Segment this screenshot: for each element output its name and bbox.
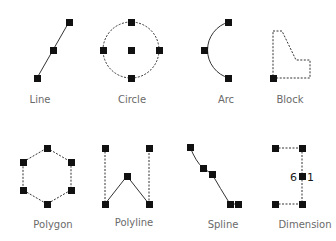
polygon-label: Polygon <box>33 219 72 230</box>
grip-icon[interactable] <box>201 47 208 54</box>
grip-icon[interactable] <box>128 47 135 54</box>
dimension-value-right: 1 <box>307 171 314 184</box>
grip-icon[interactable] <box>299 173 306 180</box>
grip-icon[interactable] <box>299 201 306 208</box>
grip-icon[interactable] <box>272 201 279 208</box>
line-entity: Line <box>30 19 73 105</box>
grip-icon[interactable] <box>128 75 135 82</box>
dimension-value-left: 6 <box>290 171 297 184</box>
grip-icon[interactable] <box>235 201 242 208</box>
grip-icon[interactable] <box>66 19 73 26</box>
block-entity: Block <box>270 31 310 105</box>
grip-icon[interactable] <box>187 144 194 151</box>
polygon-entity: Polygon <box>20 145 75 230</box>
grip-icon[interactable] <box>102 145 109 152</box>
spline-label: Spline <box>208 219 239 230</box>
grip-icon[interactable] <box>44 201 51 208</box>
arc-entity: Arc <box>201 19 234 105</box>
entity-grips-diagram: Line Circle Arc Block Polygon <box>0 0 336 241</box>
grip-icon[interactable] <box>227 201 234 208</box>
polygon-shape <box>23 148 71 204</box>
grip-icon[interactable] <box>44 145 51 152</box>
grip-icon[interactable] <box>156 47 163 54</box>
grip-icon[interactable] <box>100 47 107 54</box>
grip-icon[interactable] <box>128 19 135 26</box>
line-label: Line <box>30 94 51 105</box>
grip-icon[interactable] <box>20 187 27 194</box>
polyline-shape <box>105 176 149 204</box>
grip-icon[interactable] <box>225 19 232 26</box>
grip-icon[interactable] <box>50 47 57 54</box>
grip-icon[interactable] <box>68 187 75 194</box>
polyline-entity: Polyline <box>102 145 153 228</box>
grip-icon[interactable] <box>20 159 27 166</box>
grip-icon[interactable] <box>200 165 207 172</box>
grip-icon[interactable] <box>34 75 41 82</box>
block-shape <box>273 31 310 78</box>
arc-shape <box>208 22 229 78</box>
spline-entity: Spline <box>187 144 242 230</box>
polyline-label: Polyline <box>115 217 154 228</box>
grip-icon[interactable] <box>299 145 306 152</box>
grip-icon[interactable] <box>209 171 216 178</box>
circle-entity: Circle <box>100 19 163 105</box>
dimension-label: Dimension <box>278 219 331 230</box>
circle-label: Circle <box>118 94 146 105</box>
grip-icon[interactable] <box>225 75 232 82</box>
grip-icon[interactable] <box>270 75 277 82</box>
grip-icon[interactable] <box>146 145 153 152</box>
dimension-entity: 6 1 Dimension <box>272 145 332 230</box>
arc-label: Arc <box>218 94 234 105</box>
block-label: Block <box>276 94 303 105</box>
grip-icon[interactable] <box>102 201 109 208</box>
grip-icon[interactable] <box>124 173 131 180</box>
grip-icon[interactable] <box>146 201 153 208</box>
grip-icon[interactable] <box>68 159 75 166</box>
grip-icon[interactable] <box>272 145 279 152</box>
